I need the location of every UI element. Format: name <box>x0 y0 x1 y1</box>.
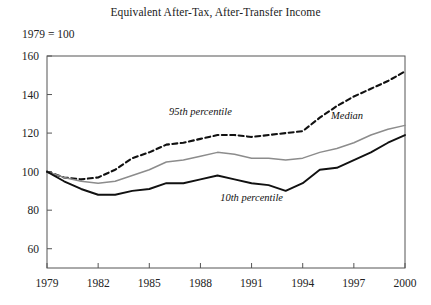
series-label-2: 10th percentile <box>220 192 283 203</box>
series-label-0: 95th percentile <box>169 106 232 117</box>
series-label-1: Median <box>330 110 363 121</box>
y-tick-label: 100 <box>22 166 40 178</box>
x-tick-label: 1994 <box>291 277 314 289</box>
chart-figure: Equivalent After-Tax, After-Transfer Inc… <box>0 0 431 305</box>
series-line-0 <box>47 71 405 179</box>
x-tick-label: 1988 <box>189 277 212 289</box>
y-tick-label: 160 <box>22 50 40 62</box>
x-tick-label: 1991 <box>240 277 263 289</box>
y-tick-label: 60 <box>28 243 40 255</box>
x-tick-label: 1982 <box>87 277 110 289</box>
x-tick-label: 1985 <box>138 277 161 289</box>
y-tick-label: 80 <box>28 204 40 216</box>
x-tick-label: 2000 <box>394 277 417 289</box>
y-tick-label: 120 <box>22 127 40 139</box>
x-tick-label: 1979 <box>36 277 59 289</box>
series-annotations: 95th percentileMedian10th percentile <box>169 106 363 203</box>
x-tick-label: 1997 <box>342 277 365 289</box>
y-tick-label: 140 <box>22 89 40 101</box>
x-axis-ticks: 19791982198519881991199419972000 <box>36 263 417 289</box>
line-chart-plot: 6080100120140160 19791982198519881991199… <box>0 0 431 305</box>
series-lines <box>47 71 405 194</box>
